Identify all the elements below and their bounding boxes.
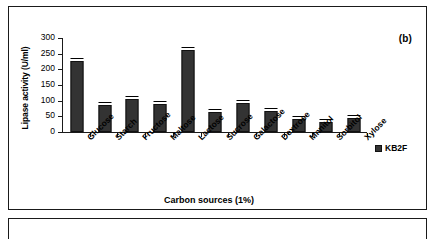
y-tick-label-250: 250	[31, 48, 55, 59]
error-bar-glucose	[70, 58, 83, 60]
next-figure-frame	[8, 218, 427, 239]
y-tick-label-200: 200	[31, 63, 55, 74]
y-tick-0: 0	[58, 132, 62, 133]
error-bar-maltose	[154, 101, 167, 103]
y-tick-50: 50	[58, 116, 62, 117]
x-category-label-maltose: Maltose	[168, 135, 175, 142]
error-bar-starch	[98, 102, 111, 104]
x-axis-title: Carbon sources (1%)	[49, 195, 369, 205]
y-tick-200: 200	[58, 69, 62, 70]
y-axis-title-text: Lipase activity (U/ml)	[20, 47, 30, 130]
bar-glucose	[70, 61, 83, 132]
x-category-label-xylose: Xylose	[362, 135, 369, 142]
x-category-label-glucose: Glucose	[85, 135, 92, 142]
y-tick-label-100: 100	[31, 95, 55, 106]
figure-page: (b) Lipase activity (U/ml) 0501001502002…	[0, 0, 435, 239]
y-tick-150: 150	[58, 85, 62, 86]
x-category-label-sorbitol: Sorbitol	[334, 135, 341, 142]
bar-slot	[63, 38, 91, 132]
x-axis-category-labels: GlucoseStarchFructoseMaltoseLactoseSucro…	[62, 135, 367, 193]
figure-frame: (b) Lipase activity (U/ml) 0501001502002…	[8, 6, 427, 210]
y-tick-label-150: 150	[31, 79, 55, 90]
x-category-label-starch: Starch	[113, 135, 120, 142]
error-bar-fructose	[126, 96, 139, 98]
y-tick-label-300: 300	[31, 32, 55, 43]
y-tick-label-0: 0	[31, 126, 55, 137]
x-category-label-fructose: Fructose	[140, 135, 147, 142]
y-tick-250: 250	[58, 54, 62, 55]
x-category-label-dextrose: Dextrose	[279, 135, 286, 142]
y-tick-300: 300	[58, 38, 62, 39]
y-tick-label-50: 50	[31, 110, 55, 121]
x-category-label-mnnitol: Mnnitol	[307, 135, 314, 142]
x-category-label-galactose: Galactose	[251, 135, 258, 142]
x-category-label-sucrose: Sucrose	[224, 135, 231, 142]
legend-swatch-kb2f	[375, 145, 382, 152]
y-tick-100: 100	[58, 101, 62, 102]
error-bar-sucrose	[209, 109, 222, 111]
panel-label: (b)	[399, 33, 412, 44]
legend: KB2F	[375, 143, 407, 153]
error-bar-galactose	[237, 100, 250, 102]
error-bar-lactose	[181, 47, 194, 49]
x-category-label-lactose: Lactose	[196, 135, 203, 142]
legend-label-kb2f: KB2F	[385, 143, 407, 153]
